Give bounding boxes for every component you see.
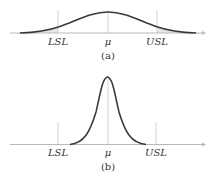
usl-label-a: USL	[146, 36, 168, 47]
mean-label-b: μ	[105, 147, 112, 158]
mean-label-a: μ	[105, 36, 112, 47]
axis-arrow-b	[202, 143, 206, 147]
panel-a: LSL μ USL (a)	[10, 10, 206, 61]
process-capability-diagram: LSL μ USL (a) LSL μ USL (b)	[0, 0, 217, 181]
lsl-label-b: LSL	[47, 147, 68, 158]
axis-arrow-a	[202, 31, 206, 35]
caption-a: (a)	[101, 50, 115, 61]
caption-b: (b)	[101, 161, 115, 172]
lsl-label-a: LSL	[47, 36, 68, 47]
usl-label-b: USL	[145, 147, 167, 158]
panel-b: LSL μ USL (b)	[10, 77, 206, 172]
